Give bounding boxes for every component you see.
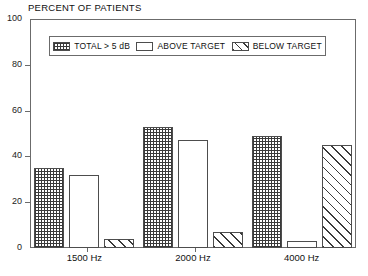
chart-title: PERCENT OF PATIENTS (28, 2, 142, 13)
chart-legend: TOTAL > 5 dBABOVE TARGETBELOW TARGET (49, 36, 326, 56)
y-axis-tick-label: 80 (12, 59, 22, 69)
legend-swatch-diagonal-icon (232, 42, 249, 51)
x-axis: 1500 Hz2000 Hz4000 Hz (30, 252, 356, 270)
legend-label: ABOVE TARGET (157, 41, 225, 51)
x-axis-tick-label: 1500 Hz (44, 252, 124, 263)
y-axis-tick-label: 20 (12, 196, 22, 206)
legend-label: TOTAL > 5 dB (74, 41, 130, 51)
y-axis-tick-label: 0 (17, 242, 22, 252)
legend-swatch-empty-icon (136, 42, 153, 51)
legend-item: TOTAL > 5 dB (53, 41, 130, 51)
x-axis-tick-label: 2000 Hz (153, 252, 233, 263)
legend-swatch-crosshatch-icon (53, 42, 70, 51)
x-axis-tick-mark (87, 248, 88, 252)
y-axis-tick-label: 60 (12, 105, 22, 115)
bar-chart: PERCENT OF PATIENTS 020406080100 1500 Hz… (0, 0, 368, 276)
legend-label: BELOW TARGET (253, 41, 322, 51)
y-axis-tick-label: 100 (7, 13, 22, 23)
legend-item: ABOVE TARGET (136, 41, 225, 51)
x-axis-tick-label: 4000 Hz (262, 252, 342, 263)
x-axis-tick-mark (195, 248, 196, 252)
legend-item: BELOW TARGET (232, 41, 322, 51)
y-axis-tick-label: 40 (12, 150, 22, 160)
y-axis: 020406080100 (0, 19, 30, 248)
